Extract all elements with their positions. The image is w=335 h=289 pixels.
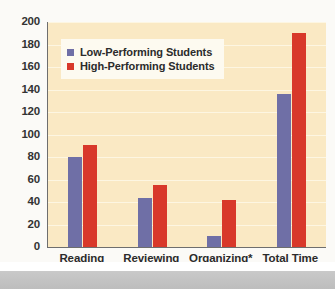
y-axis-tick-labels: 200180160140120100806040200 bbox=[0, 0, 335, 289]
y-axis-tick-label: 100 bbox=[2, 128, 40, 140]
y-axis-tick-label: 0 bbox=[2, 240, 40, 252]
y-axis-tick-label: 140 bbox=[2, 83, 40, 95]
y-axis-tick-label: 20 bbox=[2, 218, 40, 230]
y-axis-tick-label: 60 bbox=[2, 173, 40, 185]
y-axis-tick-label: 160 bbox=[2, 60, 40, 72]
y-axis-tick-label: 40 bbox=[2, 195, 40, 207]
y-axis-tick-label: 200 bbox=[2, 15, 40, 27]
bar-chart-figure: Low-Performing StudentsHigh-Performing S… bbox=[0, 0, 335, 289]
y-axis-tick-label: 80 bbox=[2, 150, 40, 162]
scan-edge-band bbox=[0, 262, 335, 289]
y-axis-tick-label: 120 bbox=[2, 105, 40, 117]
y-axis-tick-label: 180 bbox=[2, 38, 40, 50]
scan-edge-gradient bbox=[0, 262, 335, 289]
